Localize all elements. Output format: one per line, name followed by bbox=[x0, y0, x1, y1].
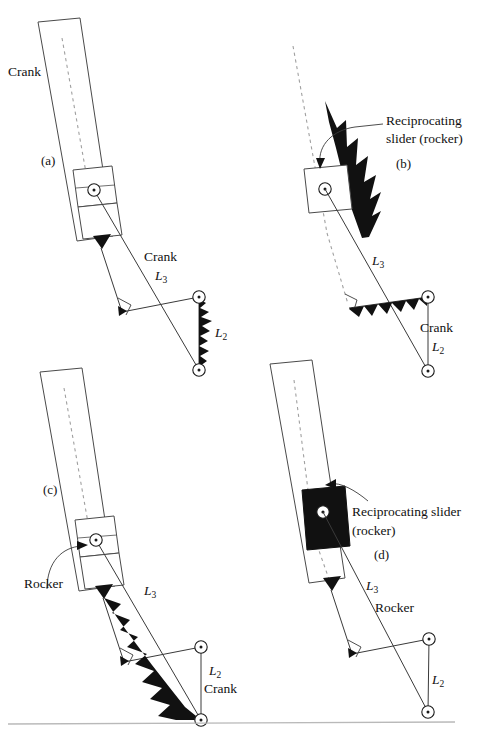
panel-a-tag: (a) bbox=[41, 154, 55, 169]
panel-d-coupler-length: L3 bbox=[366, 578, 378, 596]
panel-b-callout-line1: Reciprocating bbox=[386, 113, 462, 129]
panel-b-callout-leader bbox=[355, 124, 383, 127]
panel-d-callout-line2: (rocker) bbox=[352, 523, 395, 539]
panel-c-L2-letter: L bbox=[209, 663, 217, 678]
panel-c-slider-pivot bbox=[90, 534, 102, 546]
panel-a-crank-length: L2 bbox=[215, 325, 227, 343]
panel-a-ground-pivot-triangle bbox=[118, 306, 127, 316]
bottom-divider bbox=[8, 722, 455, 724]
panel-d-crank-length: L2 bbox=[432, 672, 444, 690]
panel-a-L3-sub: 3 bbox=[163, 275, 168, 285]
panel-a-slider-pivot bbox=[88, 184, 100, 196]
panel-d-L2-letter: L bbox=[432, 672, 440, 687]
panel-a-coupler-length: L3 bbox=[155, 268, 167, 286]
panel-c-ground-hatch-diagonal bbox=[104, 598, 201, 720]
figure-canvas bbox=[0, 0, 481, 737]
panel-b-tag: (b) bbox=[396, 157, 411, 172]
panel-a-L3-letter: L bbox=[155, 268, 163, 283]
panel-a-bar-label: Crank bbox=[8, 64, 41, 80]
panel-c-crank-pivot-bottom bbox=[195, 714, 207, 726]
panel-d bbox=[270, 360, 435, 718]
panel-a-coupler-name: Crank bbox=[144, 249, 177, 265]
panel-a-bar-end-pivot bbox=[93, 234, 111, 249]
panel-b-L2-sub: 2 bbox=[440, 346, 445, 356]
panel-d-coupler-name: Rocker bbox=[375, 600, 414, 616]
panel-d-L3-letter: L bbox=[366, 578, 374, 593]
panel-c-crank-pivot-top bbox=[195, 641, 207, 653]
panel-a-L2-sub: 2 bbox=[223, 332, 228, 342]
panel-d-crank-pivot-top bbox=[423, 633, 435, 645]
panel-c-crank-length: L2 bbox=[209, 663, 221, 681]
panel-d-crank-pivot-bottom bbox=[422, 706, 434, 718]
panel-c-callout: Rocker bbox=[24, 576, 63, 592]
panel-a-coupler-L3 bbox=[94, 190, 199, 370]
panel-d-tag: (d) bbox=[374, 548, 389, 563]
panel-b-center-axis-lower bbox=[327, 233, 348, 304]
panel-c-coupler-L3 bbox=[96, 540, 201, 720]
panel-d-crank-L2 bbox=[428, 639, 429, 712]
panel-b-crank-length: L2 bbox=[432, 339, 444, 357]
panel-c-L3-sub: 3 bbox=[152, 590, 157, 600]
panel-a bbox=[38, 18, 212, 376]
panel-d-ground-left bbox=[331, 590, 352, 654]
panel-c bbox=[40, 368, 207, 726]
panel-b-L3-letter: L bbox=[372, 253, 380, 268]
panel-c-crank-name: Crank bbox=[204, 681, 237, 697]
panel-b-L2-letter: L bbox=[432, 339, 440, 354]
panel-a-crank-pivot-bottom bbox=[193, 364, 205, 376]
panel-c-L3-letter: L bbox=[144, 583, 152, 598]
panel-b-callout-line2: slider (rocker) bbox=[386, 131, 463, 147]
panel-d-ground-pivot-triangle bbox=[348, 648, 357, 658]
panel-b-coupler-length: L3 bbox=[372, 253, 384, 271]
panel-b-crank-pivot-bottom bbox=[422, 365, 434, 377]
panel-c-ground-pivot-triangle bbox=[120, 656, 129, 666]
panel-c-L2-sub: 2 bbox=[217, 670, 222, 680]
panel-d-L3-sub: 3 bbox=[374, 585, 379, 595]
panel-a-ground-bottom bbox=[122, 297, 199, 312]
panel-b bbox=[293, 46, 434, 377]
panel-a-crank-pivot-top bbox=[193, 291, 205, 303]
mechanism-inversion-figure: Crank (a) Crank L3 L2 Reciprocating slid… bbox=[0, 0, 481, 737]
panel-c-bar-end-pivot bbox=[95, 584, 113, 599]
panel-a-ground-hatch bbox=[199, 299, 212, 370]
panel-d-bar-end-pivot bbox=[323, 576, 341, 591]
panel-c-tag: (c) bbox=[43, 483, 57, 498]
panel-d-callout-line1: Reciprocating slider bbox=[352, 504, 461, 520]
panel-a-ground-left bbox=[101, 248, 122, 312]
panel-c-coupler-length: L3 bbox=[144, 583, 156, 601]
panel-a-L2-letter: L bbox=[215, 325, 223, 340]
panel-b-ground-hatch-horizontal bbox=[349, 297, 428, 317]
panel-b-L3-sub: 3 bbox=[380, 260, 385, 270]
panel-d-L2-sub: 2 bbox=[440, 679, 445, 689]
panel-b-crank-pivot-top bbox=[422, 291, 434, 303]
panel-b-crank-name: Crank bbox=[420, 320, 453, 336]
